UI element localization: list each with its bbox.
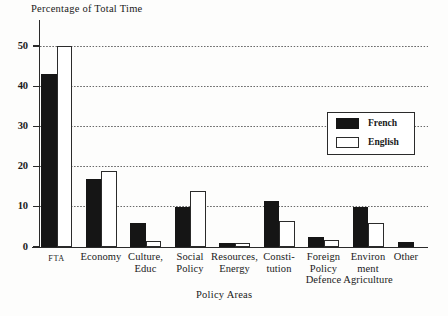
x-axis-label-line: Foreign	[307, 251, 340, 262]
legend-label-english: English	[368, 136, 399, 147]
bar-english-0	[57, 46, 73, 247]
bar-chart-figure: Percentage of Total Time 01020304050 FTA…	[0, 0, 448, 316]
bar-french-2	[130, 223, 146, 247]
bar-french-0	[41, 74, 57, 247]
y-tick-mark-0	[33, 246, 40, 247]
bar-english-4	[235, 243, 251, 247]
bar-english-5	[279, 221, 295, 247]
bar-english-3	[190, 191, 206, 247]
bar-french-3	[175, 207, 191, 247]
x-axis-label-line: Consti-	[263, 251, 295, 262]
y-tick-label-30: 30	[6, 120, 28, 131]
x-axis-label-line: ment	[339, 263, 397, 275]
x-axis-label-line: FTA	[48, 254, 64, 263]
chart-legend: French English	[327, 112, 415, 155]
y-tick-label-50: 50	[6, 40, 28, 51]
bar-english-2	[146, 241, 162, 247]
legend-swatch-english-icon	[336, 137, 359, 148]
bar-french-8	[398, 242, 414, 247]
bar-french-1	[86, 179, 102, 247]
legend-swatch-french-icon	[336, 118, 359, 129]
x-axis-label-line: Social	[177, 251, 204, 262]
x-axis-label-line: Economy	[81, 251, 122, 262]
bar-english-1	[101, 171, 117, 247]
bar-french-5	[264, 201, 280, 247]
y-tick-mark-10	[33, 206, 40, 207]
y-tick-label-20: 20	[6, 160, 28, 171]
bar-french-6	[308, 237, 324, 247]
y-tick-label-10: 10	[6, 200, 28, 211]
y-tick-label-40: 40	[6, 80, 28, 91]
x-axis-title: Policy Areas	[196, 289, 252, 300]
x-axis-label-line: Agriculture	[339, 274, 397, 286]
y-tick-mark-20	[33, 166, 40, 167]
y-tick-mark-50	[33, 45, 40, 46]
bar-french-7	[353, 207, 369, 247]
bar-english-6	[324, 240, 340, 247]
x-axis-label-line: Culture,	[128, 251, 163, 262]
bar-english-7	[368, 223, 384, 247]
y-tick-mark-40	[33, 86, 40, 87]
y-axis-title: Percentage of Total Time	[31, 3, 143, 14]
x-axis-label-8: Other	[377, 251, 435, 263]
x-axis-label-line: Other	[394, 251, 418, 262]
y-tick-mark-30	[33, 126, 40, 127]
legend-label-french: French	[368, 117, 397, 128]
bar-french-4	[219, 243, 235, 247]
y-tick-label-0: 0	[6, 241, 28, 252]
